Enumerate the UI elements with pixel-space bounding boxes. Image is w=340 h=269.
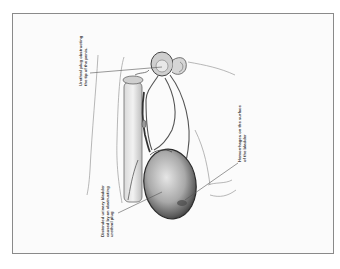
label-distended-bladder: Distended urinary bladder caused by an o…	[101, 185, 115, 237]
label-line: the tip of the penis.	[84, 36, 89, 86]
anatomical-drawing	[0, 0, 340, 269]
urethral-plug-tip	[151, 52, 186, 76]
label-line: urethral plug	[110, 185, 115, 237]
label-hemorrhages: Hemorrhages on the surface of the bladde…	[238, 105, 247, 162]
label-line: of the bladder	[243, 105, 248, 162]
label-urethral-plug: Urethral plug obstructing the tip of the…	[79, 36, 88, 86]
